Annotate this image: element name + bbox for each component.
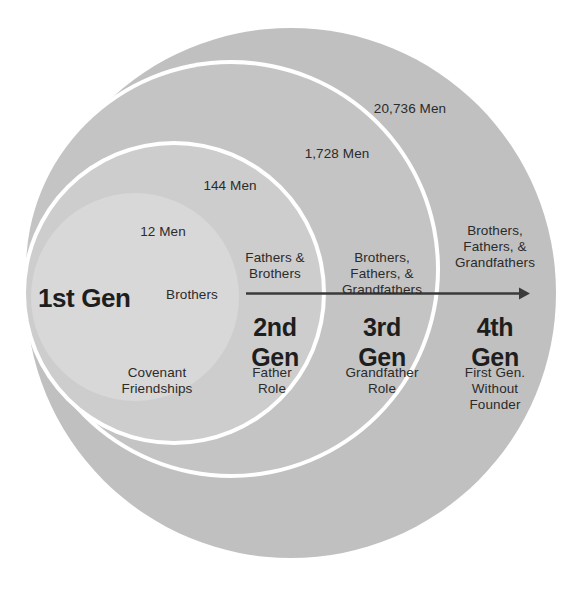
generation-1-relationship: Brothers <box>166 287 218 303</box>
generation-3-role: Grandfather Role <box>345 365 418 397</box>
generation-2-role: Father Role <box>252 365 292 397</box>
generation-3-title: 3rd Gen <box>358 313 406 372</box>
generational-multiplication-diagram: 20,736 Men 1,728 Men 144 Men 12 Men Brot… <box>0 0 573 592</box>
generation-3-count: 1,728 Men <box>305 146 370 162</box>
generation-1-count: 12 Men <box>140 224 186 240</box>
generation-1-title: 1st Gen <box>38 283 131 314</box>
generation-3-relationship: Brothers, Fathers, & Grandfathers <box>342 250 422 298</box>
labels: 20,736 Men 1,728 Men 144 Men 12 Men Brot… <box>0 0 573 592</box>
generation-4-count: 20,736 Men <box>374 101 446 117</box>
generation-4-role: First Gen. Without Founder <box>465 365 525 413</box>
generation-2-title: 2nd Gen <box>251 313 299 372</box>
generation-4-relationship: Brothers, Fathers, & Grandfathers <box>455 223 535 271</box>
generation-4-title: 4th Gen <box>471 313 519 372</box>
generation-2-relationship: Fathers & Brothers <box>245 250 304 282</box>
generation-1-role: Covenant Friendships <box>122 365 193 397</box>
generation-2-count: 144 Men <box>203 178 256 194</box>
